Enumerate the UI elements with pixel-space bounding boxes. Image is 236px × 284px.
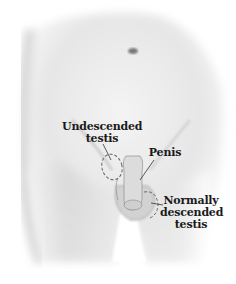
- label-undescended-testis: Undescended testis: [62, 121, 142, 145]
- label-penis: Penis: [145, 147, 185, 159]
- label-undescended-line2: testis: [62, 133, 142, 145]
- label-normal-line3: testis: [160, 219, 222, 231]
- label-normally-descended-testis: Normally descended testis: [160, 195, 222, 231]
- label-penis-line1: Penis: [145, 147, 185, 159]
